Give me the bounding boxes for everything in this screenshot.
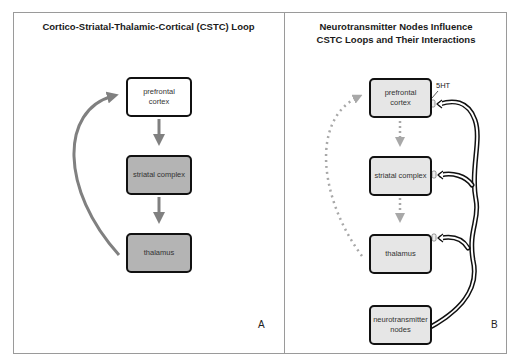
panel-b-thalamus-node: thalamus [369, 234, 432, 274]
serotonin-label: 5HT [436, 81, 450, 90]
node-label: striatal complex [374, 171, 426, 181]
panel-b-label: B [491, 319, 498, 330]
panel-b-prefrontal-cortex-node: prefrontal cortex [369, 78, 432, 118]
panel-b-arrows [0, 0, 516, 361]
node-label: prefrontal cortex [385, 88, 417, 108]
node-label: thalamus [385, 249, 415, 259]
panel-b-striatal-complex-node: striatal complex [369, 156, 432, 196]
panel-b-neurotransmitter-nodes-node: neurotransmitter nodes [369, 305, 432, 345]
node-label: neurotransmitter nodes [373, 315, 428, 335]
